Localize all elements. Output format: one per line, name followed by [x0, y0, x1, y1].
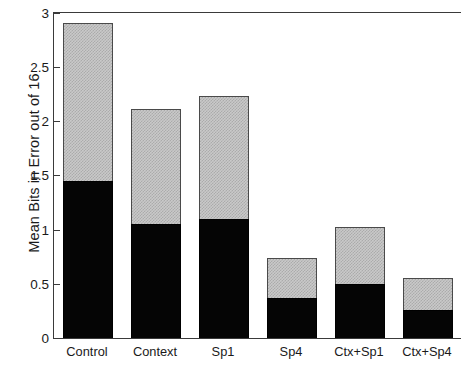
y-tick-label: 3 — [41, 5, 49, 20]
bar-segment-black — [267, 298, 317, 338]
y-tick-mark — [54, 230, 60, 231]
y-tick-label: 2.5 — [30, 59, 49, 74]
y-tick-label: 1 — [41, 222, 49, 237]
x-axis-label-context: Context — [133, 344, 177, 359]
bar-segment-black — [403, 310, 453, 338]
y-tick-mark — [54, 284, 60, 285]
y-tick-mark — [54, 67, 60, 68]
x-axis-label-ctx-sp4: Ctx+Sp4 — [402, 344, 451, 359]
bar-segment-black — [63, 181, 113, 338]
bar-sp1 — [199, 96, 249, 338]
bar-segment-black — [131, 224, 181, 338]
bar-ctx-sp4 — [403, 278, 453, 338]
bar-segment-black — [335, 284, 385, 338]
x-axis-label-ctx-sp1: Ctx+Sp1 — [334, 344, 383, 359]
bar-sp4 — [267, 258, 317, 338]
y-tick-mark — [54, 13, 60, 14]
bar-context — [131, 109, 181, 338]
y-tick-mark — [54, 121, 60, 122]
bar-ctx-sp1 — [335, 227, 385, 338]
plot-area: 00.511.522.53 — [53, 12, 461, 339]
y-tick-label: 2 — [41, 114, 49, 129]
x-axis-label-sp1: Sp1 — [212, 344, 235, 359]
y-tick-mark — [54, 338, 60, 339]
y-tick-label: 1.5 — [30, 168, 49, 183]
y-tick-mark — [54, 175, 60, 176]
y-tick-label: 0.5 — [30, 276, 49, 291]
bar-segment-black — [199, 219, 249, 338]
y-tick-label: 0 — [41, 331, 49, 346]
x-axis-label-sp4: Sp4 — [280, 344, 303, 359]
bar-chart-figure: Mean Bits in Error out of 16 00.511.522.… — [0, 0, 461, 371]
bar-control — [63, 23, 113, 338]
x-axis-label-control: Control — [66, 344, 107, 359]
